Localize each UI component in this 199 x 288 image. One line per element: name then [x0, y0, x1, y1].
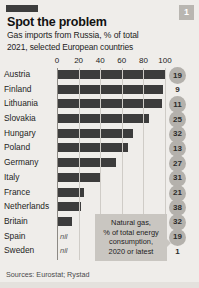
bar: [57, 202, 81, 211]
badge-row: 19: [167, 230, 197, 245]
category-labels: AustriaFinlandLithuaniaSlovakiaHungaryPo…: [4, 68, 56, 259]
callout-box: Natural gas, % of total energy consumpti…: [95, 214, 167, 261]
x-axis-tick-labels: 020406080100: [57, 56, 165, 68]
bar-row: [57, 127, 165, 142]
chart-number-badge: 1: [179, 5, 194, 20]
badge-row: 11: [167, 97, 197, 112]
bar-row: [57, 68, 165, 83]
bar: [57, 99, 162, 108]
callout-line-2: % of total energy: [98, 228, 164, 238]
badge-row: 21: [167, 186, 197, 201]
category-label: Poland: [4, 141, 56, 156]
category-label: Germany: [4, 156, 56, 171]
bar-row: [57, 200, 165, 215]
badge-row: 38: [167, 200, 197, 215]
category-label: Sweden: [4, 244, 56, 259]
category-label: France: [4, 186, 56, 201]
source-line: Sources: Eurostat; Rystad: [6, 270, 90, 279]
callout-arrow-icon: [167, 239, 171, 247]
bar-row: [57, 83, 165, 98]
bar-row: [57, 141, 165, 156]
bar-row: [57, 171, 165, 186]
category-label: Hungary: [4, 127, 56, 142]
bar-row: [57, 97, 165, 112]
chart-note: 2021, selected European countries: [7, 42, 133, 52]
chart-card: 1 Spot the problem Gas imports from Russ…: [0, 0, 199, 288]
x-tick-0: 0: [55, 56, 59, 65]
bar: [57, 158, 116, 167]
bar: [57, 188, 84, 197]
badge-row: 32: [167, 215, 197, 230]
x-tick-40: 40: [96, 56, 105, 65]
badge-row: 9: [167, 83, 197, 98]
badge-row: 27: [167, 156, 197, 171]
x-tick-20: 20: [74, 56, 83, 65]
bar: [57, 114, 149, 123]
bar: [57, 85, 163, 94]
chart-subtitle: Gas imports from Russia, % of total: [7, 30, 139, 40]
x-tick-80: 80: [139, 56, 148, 65]
footer-strip: [0, 282, 199, 288]
page-title: Spot the problem: [7, 15, 107, 29]
axis-zero-line: [57, 68, 58, 260]
badge-row: 13: [167, 141, 197, 156]
bar: [57, 143, 128, 152]
category-label: Netherlands: [4, 200, 56, 215]
category-label: Italy: [4, 171, 56, 186]
category-label: Finland: [4, 83, 56, 98]
consumption-badge: 1: [169, 243, 186, 260]
badge-row: 19: [167, 68, 197, 83]
bar-row: [57, 186, 165, 201]
gridline-20: [79, 68, 80, 260]
bar-nil-label: nil: [60, 246, 68, 255]
badge-row: 31: [167, 171, 197, 186]
category-label: Britain: [4, 215, 56, 230]
badge-row: 1: [167, 244, 197, 259]
callout-line-1: Natural gas,: [98, 218, 164, 228]
category-label: Austria: [4, 68, 56, 83]
x-tick-60: 60: [117, 56, 126, 65]
bar-nil-label: nil: [60, 232, 68, 241]
callout-line-3: consumption,: [98, 237, 164, 247]
category-label: Slovakia: [4, 112, 56, 127]
brand-tab: [6, 5, 38, 12]
category-label: Lithuania: [4, 97, 56, 112]
category-label: Spain: [4, 230, 56, 245]
bar-row: [57, 156, 165, 171]
bar-row: [57, 112, 165, 127]
bar: [57, 217, 72, 226]
consumption-badges: 199112532132731213832191: [167, 68, 197, 259]
callout-line-4: 2020 or latest: [98, 247, 164, 257]
bar: [57, 70, 165, 79]
badge-row: 25: [167, 112, 197, 127]
x-tick-100: 100: [158, 56, 171, 65]
badge-row: 32: [167, 127, 197, 142]
